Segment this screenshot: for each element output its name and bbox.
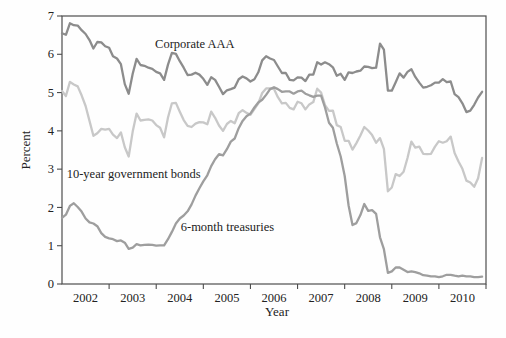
x-tick-label: 2008 <box>356 291 381 305</box>
x-tick-label: 2003 <box>120 291 145 305</box>
y-tick-label: 1 <box>48 239 54 253</box>
series-line-corporate-aaa <box>62 23 482 112</box>
y-tick-label: 4 <box>48 124 55 138</box>
plot-area: 0123456720022003200420052006200720082009… <box>48 9 486 305</box>
series-annotation: 10-year government bonds <box>67 167 201 181</box>
x-tick-label: 2004 <box>167 291 193 305</box>
interest-rates-figure: Percent Year 012345672002200320042005200… <box>0 0 506 338</box>
x-tick-label: 2009 <box>403 291 428 305</box>
x-tick-label: 2002 <box>73 291 98 305</box>
x-axis-title: Year <box>265 304 290 319</box>
y-tick-label: 5 <box>48 86 54 100</box>
y-tick-label: 7 <box>48 9 54 23</box>
x-tick-label: 2005 <box>214 291 239 305</box>
y-tick-label: 0 <box>48 277 54 291</box>
interest-rate-line-chart: Percent Year 012345672002200320042005200… <box>0 0 506 338</box>
y-axis-title: Percent <box>18 130 33 169</box>
series-line-6-month-treasuries <box>62 87 482 277</box>
series-annotation: 6-month treasuries <box>181 220 275 234</box>
x-tick-label: 2006 <box>262 291 287 305</box>
x-tick-label: 2010 <box>450 291 475 305</box>
x-tick-label: 2007 <box>309 291 334 305</box>
y-tick-label: 6 <box>48 47 54 61</box>
series-annotation: Corporate AAA <box>155 37 235 51</box>
y-tick-label: 2 <box>48 201 54 215</box>
y-tick-label: 3 <box>48 162 54 176</box>
